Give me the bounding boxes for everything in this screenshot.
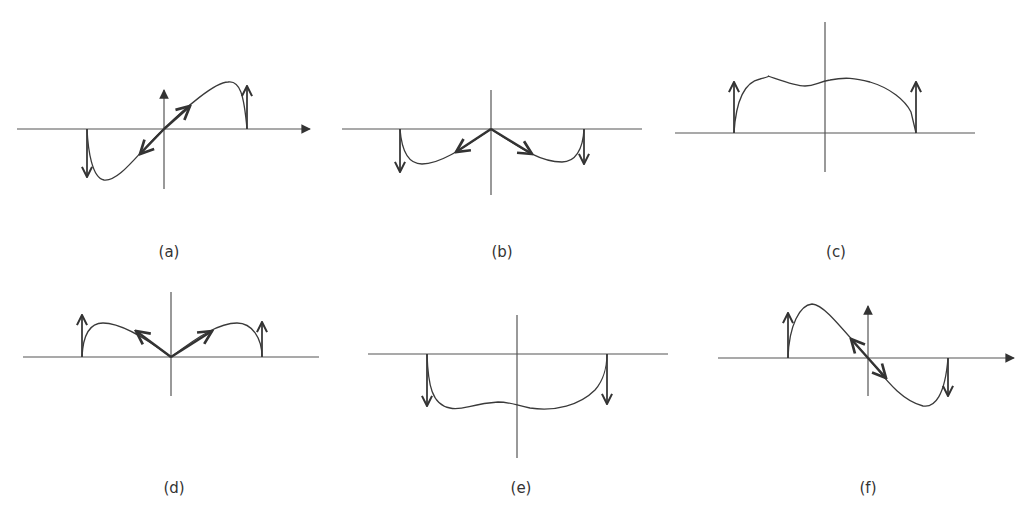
vector-arrow-icon <box>140 129 164 154</box>
panel-label-d: (d) <box>163 479 184 497</box>
vector-arrow-icon <box>456 129 491 152</box>
vector-arrow-icon <box>851 339 868 358</box>
panel-b <box>342 90 642 195</box>
panel-a <box>17 82 310 189</box>
vector-arrow-icon <box>171 331 212 357</box>
vector-arrow-icon <box>491 129 532 154</box>
panel-f <box>718 304 1014 406</box>
vector-arrow-icon <box>136 331 171 357</box>
panel-label-f: (f) <box>860 479 877 497</box>
panel-label-b: (b) <box>491 243 512 261</box>
panel-d <box>23 292 319 396</box>
panel-label-c: (c) <box>826 243 846 261</box>
vector-arrow-icon <box>164 106 190 129</box>
profile-curve <box>82 323 262 357</box>
panel-e <box>368 315 668 458</box>
profile-curve <box>87 82 247 180</box>
figure-canvas <box>0 0 1035 522</box>
profile-curve <box>400 129 584 164</box>
vector-arrow-icon <box>868 358 886 378</box>
panel-label-e: (e) <box>511 479 532 497</box>
panel-c <box>675 22 975 172</box>
panel-label-a: (a) <box>159 243 180 261</box>
